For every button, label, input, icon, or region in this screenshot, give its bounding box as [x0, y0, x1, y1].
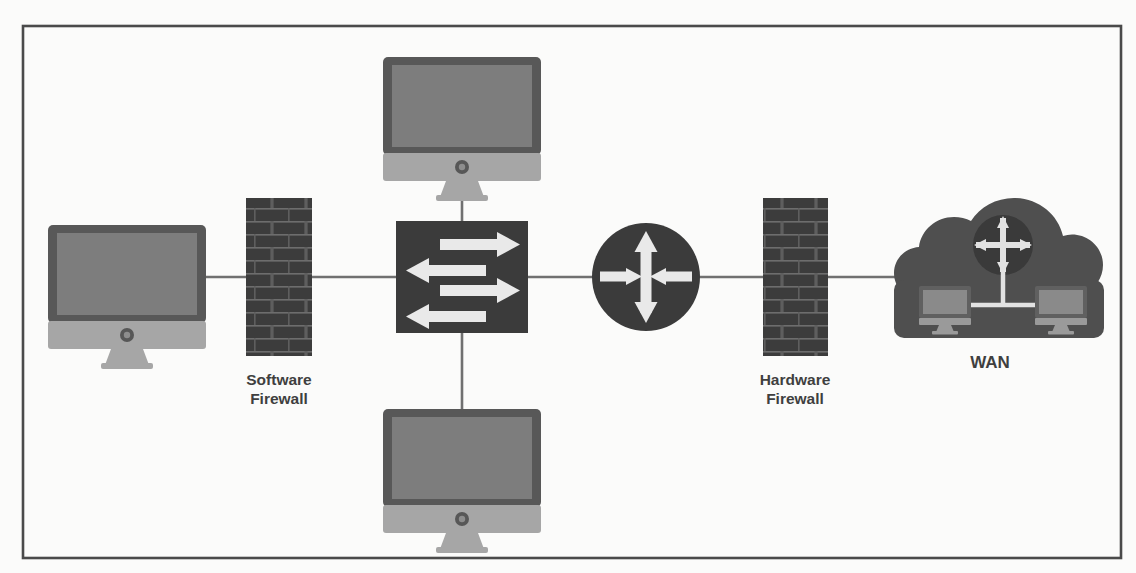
hardware-firewall-label-line1: Hardware	[760, 371, 831, 388]
hardware-firewall-label-line2: Firewall	[766, 390, 824, 407]
switch-node[interactable]	[396, 221, 528, 333]
diagram-canvas: Software Firewall	[0, 0, 1136, 573]
network-diagram: Software Firewall	[0, 0, 1136, 573]
software-firewall-node[interactable]	[246, 198, 312, 356]
software-firewall-label-line1: Software	[246, 371, 312, 388]
router-node[interactable]	[592, 223, 700, 331]
software-firewall-icon[interactable]	[246, 198, 312, 356]
hardware-firewall-node[interactable]	[763, 198, 828, 356]
left-workstation-monitor-icon[interactable]	[48, 225, 206, 369]
bottom-workstation-monitor-icon[interactable]	[383, 409, 541, 553]
top-workstation-monitor-icon[interactable]	[383, 57, 541, 201]
hardware-firewall-icon[interactable]	[763, 198, 828, 356]
wan-label: WAN	[970, 353, 1010, 372]
wan-cloud-node[interactable]	[894, 198, 1104, 338]
software-firewall-label-line2: Firewall	[250, 390, 308, 407]
